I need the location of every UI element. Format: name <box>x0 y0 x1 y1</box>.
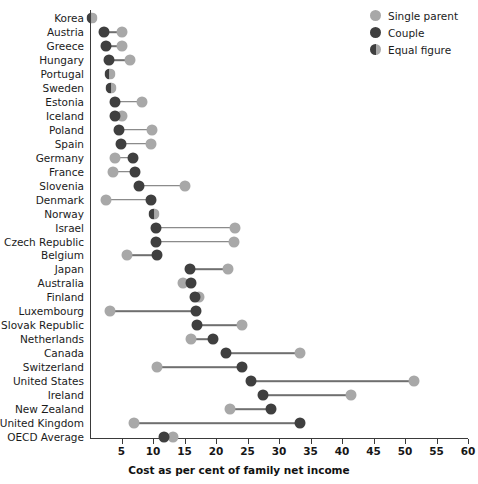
data-point-couple[interactable] <box>103 54 114 65</box>
data-point-single-parent[interactable] <box>110 152 121 163</box>
y-axis-category-label: United Kingdom <box>0 417 84 429</box>
connector-line <box>106 199 151 201</box>
data-point-single-parent[interactable] <box>294 348 305 359</box>
data-point-couple[interactable] <box>152 250 163 261</box>
y-axis-category-label: Czech Republic <box>4 236 84 248</box>
data-point-couple[interactable] <box>159 432 170 443</box>
data-point-single-parent[interactable] <box>101 194 112 205</box>
y-axis-category-label: Poland <box>49 124 84 136</box>
data-point-single-parent[interactable] <box>237 320 248 331</box>
x-axis-tick-label: 5 <box>118 445 125 457</box>
y-axis-category-label: Hungary <box>39 54 84 66</box>
data-point-couple[interactable] <box>192 320 203 331</box>
connector-line <box>139 185 185 187</box>
connector-line <box>251 380 414 382</box>
data-point-couple[interactable] <box>110 110 121 121</box>
data-point-couple[interactable] <box>113 124 124 135</box>
data-point-single-parent[interactable] <box>229 236 240 247</box>
data-point-couple[interactable] <box>246 376 257 387</box>
data-point-couple[interactable] <box>189 292 200 303</box>
x-axis-tick <box>405 439 406 444</box>
data-point-couple[interactable] <box>151 236 162 247</box>
data-point-couple[interactable] <box>185 264 196 275</box>
data-point-single-parent[interactable] <box>151 362 162 373</box>
connector-line <box>134 422 300 424</box>
data-point-couple[interactable] <box>237 362 248 373</box>
data-point-single-parent[interactable] <box>117 26 128 37</box>
data-point-half-single-parent <box>110 68 116 79</box>
y-axis-category-label: Slovak Republic <box>1 319 84 331</box>
data-point-single-parent[interactable] <box>146 138 157 149</box>
data-point-single-parent[interactable] <box>129 418 140 429</box>
data-point-couple[interactable] <box>99 26 110 37</box>
connector-line <box>157 366 243 368</box>
data-point-single-parent[interactable] <box>346 390 357 401</box>
data-point-single-parent[interactable] <box>108 166 119 177</box>
y-axis-category-label: France <box>49 166 84 178</box>
y-axis-line <box>90 10 91 438</box>
data-point-couple[interactable] <box>294 418 305 429</box>
data-point-couple[interactable] <box>221 348 232 359</box>
data-point-single-parent[interactable] <box>117 40 128 51</box>
y-axis-category-label: Ireland <box>48 389 84 401</box>
data-point-equal[interactable] <box>106 82 117 93</box>
data-point-single-parent[interactable] <box>180 180 191 191</box>
data-point-couple[interactable] <box>130 166 141 177</box>
y-axis-category-label: Austria <box>47 26 84 38</box>
data-point-couple[interactable] <box>257 390 268 401</box>
data-point-single-parent[interactable] <box>224 404 235 415</box>
plot-area: 51015202530354045505560KoreaAustriaGreec… <box>0 0 478 484</box>
x-axis-tick <box>468 439 469 444</box>
data-point-couple[interactable] <box>115 138 126 149</box>
x-axis-tick <box>311 439 312 444</box>
x-axis-tick <box>279 439 280 444</box>
y-axis-category-label: Estonia <box>45 96 84 108</box>
data-point-couple[interactable] <box>100 40 111 51</box>
data-point-couple[interactable] <box>208 334 219 345</box>
data-point-equal[interactable] <box>104 68 115 79</box>
y-axis-category-label: Switzerland <box>23 361 84 373</box>
y-axis-category-label: Iceland <box>46 110 84 122</box>
x-axis-tick-label: 15 <box>177 445 192 457</box>
data-point-couple[interactable] <box>109 96 120 107</box>
y-axis-category-label: OECD Average <box>7 431 84 443</box>
y-axis-category-label: Spain <box>55 138 84 150</box>
data-point-couple[interactable] <box>150 222 161 233</box>
data-point-equal[interactable] <box>149 208 160 219</box>
data-point-couple[interactable] <box>128 152 139 163</box>
connector-line <box>156 227 235 229</box>
x-axis-tick <box>185 439 186 444</box>
data-point-equal[interactable] <box>86 13 97 24</box>
data-point-single-parent[interactable] <box>122 250 133 261</box>
data-point-couple[interactable] <box>146 194 157 205</box>
y-axis-category-label: New Zealand <box>15 403 84 415</box>
data-point-couple[interactable] <box>134 180 145 191</box>
data-point-single-parent[interactable] <box>105 306 116 317</box>
data-point-single-parent[interactable] <box>124 54 135 65</box>
x-axis-tick <box>342 439 343 444</box>
connector-line <box>110 311 196 313</box>
data-point-single-parent[interactable] <box>222 264 233 275</box>
y-axis-category-label: Belgium <box>41 249 84 261</box>
connector-line <box>263 394 352 396</box>
data-point-couple[interactable] <box>191 306 202 317</box>
data-point-single-parent[interactable] <box>229 222 240 233</box>
x-axis-tick-label: 40 <box>335 445 350 457</box>
data-point-half-single-parent <box>92 13 98 24</box>
data-point-single-parent[interactable] <box>185 334 196 345</box>
y-axis-category-label: United States <box>13 375 84 387</box>
data-point-single-parent[interactable] <box>409 376 420 387</box>
x-axis-tick-label: 35 <box>303 445 318 457</box>
data-point-half-single-parent <box>154 208 160 219</box>
y-axis-category-label: Norway <box>44 208 84 220</box>
y-axis-category-label: Denmark <box>36 194 84 206</box>
data-point-single-parent[interactable] <box>137 96 148 107</box>
y-axis-category-label: Portugal <box>41 68 85 80</box>
data-point-couple[interactable] <box>265 404 276 415</box>
data-point-couple[interactable] <box>185 278 196 289</box>
y-axis-category-label: Finland <box>46 291 84 303</box>
y-axis-category-label: Australia <box>38 277 84 289</box>
data-point-single-parent[interactable] <box>147 124 158 135</box>
x-axis-tick-label: 50 <box>398 445 413 457</box>
x-axis-tick-label: 10 <box>146 445 161 457</box>
